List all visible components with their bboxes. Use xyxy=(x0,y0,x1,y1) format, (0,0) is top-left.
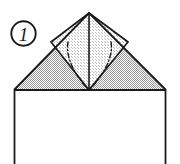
step-number-label: 1 xyxy=(19,24,29,45)
step-number-badge: 1 xyxy=(11,21,35,45)
origami-diagram-root: 1 xyxy=(0,0,180,164)
origami-diagram-svg: 1 xyxy=(0,0,180,164)
paper-body-rectangle xyxy=(14,90,166,164)
